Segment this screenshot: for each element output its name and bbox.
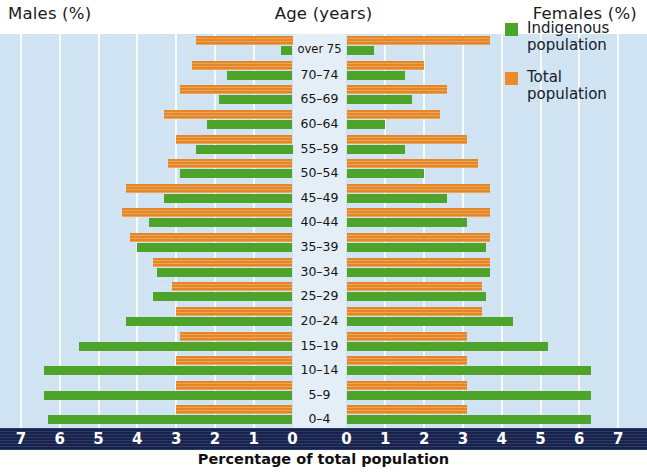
bar-male-total — [164, 110, 292, 119]
axis-tick-left: 0 — [287, 430, 297, 448]
bar-female-total — [347, 36, 491, 45]
bar-female-total — [347, 208, 491, 217]
bar-female-total — [347, 381, 467, 390]
legend-swatch-icon-total — [505, 72, 518, 85]
bar-female-total — [347, 405, 467, 414]
bar-male-indigenous — [219, 95, 293, 104]
bar-male-indigenous — [44, 391, 292, 400]
bar-male-total — [122, 208, 293, 217]
bar-female-indigenous — [347, 317, 514, 326]
age-group-label: 20–24 — [293, 315, 346, 328]
age-group-label: 40–44 — [293, 216, 346, 229]
legend-label-indigenous-line2: population — [527, 36, 607, 54]
axis-tick-right: 4 — [496, 430, 506, 448]
age-group-label: 65–69 — [293, 93, 346, 106]
axis-tick-left: 4 — [132, 430, 142, 448]
bar-male-indigenous — [44, 366, 292, 375]
pyramid-row: 45–49 — [0, 182, 647, 207]
population-pyramid-chart: Males (%) Age (years) Females (%) over 7… — [0, 0, 647, 473]
axis-tick-left: 1 — [248, 430, 258, 448]
bar-male-total — [192, 61, 293, 70]
axis-tick-left: 2 — [210, 430, 220, 448]
bar-male-indigenous — [196, 145, 293, 154]
bar-female-indigenous — [347, 243, 487, 252]
bar-female-total — [347, 110, 440, 119]
pyramid-row: 35–39 — [0, 231, 647, 256]
pyramid-row: 40–44 — [0, 206, 647, 231]
bar-male-indigenous — [227, 71, 293, 80]
bar-male-total — [176, 381, 292, 390]
x-axis-title: Percentage of total population — [0, 451, 647, 467]
bar-female-total — [347, 356, 467, 365]
bar-female-total — [347, 332, 467, 341]
age-group-label: 45–49 — [293, 192, 346, 205]
bar-female-indigenous — [347, 366, 591, 375]
bar-male-total — [172, 282, 292, 291]
age-group-label: 10–14 — [293, 364, 346, 377]
bar-male-indigenous — [79, 342, 292, 351]
bar-female-total — [347, 85, 448, 94]
bar-male-indigenous — [137, 243, 292, 252]
age-group-label: 60–64 — [293, 118, 346, 131]
age-group-label: 55–59 — [293, 143, 346, 156]
bar-male-indigenous — [126, 317, 293, 326]
bar-female-total — [347, 135, 467, 144]
axis-tick-left: 7 — [16, 430, 26, 448]
bar-male-total — [196, 36, 293, 45]
age-group-label: 25–29 — [293, 290, 346, 303]
pyramid-row: 5–9 — [0, 379, 647, 404]
legend-label-total-line2: population — [527, 85, 607, 103]
bar-male-total — [153, 258, 293, 267]
legend-label-indigenous-line1: Indigenous — [527, 19, 609, 37]
bar-female-total — [347, 61, 425, 70]
bar-female-indigenous — [347, 194, 448, 203]
axis-tick-right: 0 — [341, 430, 351, 448]
bar-male-indigenous — [281, 46, 293, 55]
bar-female-indigenous — [347, 415, 591, 424]
bar-male-total — [176, 135, 292, 144]
axis-tick-left: 3 — [171, 430, 181, 448]
legend-item-indigenous: Indigenous population — [505, 20, 640, 55]
bar-male-indigenous — [207, 120, 292, 129]
bar-male-indigenous — [180, 169, 293, 178]
bar-female-indigenous — [347, 342, 549, 351]
pyramid-row: 0–4 — [0, 403, 647, 428]
age-group-label: 70–74 — [293, 69, 346, 82]
bar-male-total — [180, 85, 293, 94]
pyramid-row: 10–14 — [0, 354, 647, 379]
legend-label-total-line1: Total — [527, 68, 562, 86]
bar-female-total — [347, 258, 491, 267]
bar-female-indigenous — [347, 120, 386, 129]
bar-female-total — [347, 184, 491, 193]
age-group-label: over 75 — [293, 44, 346, 56]
age-group-label: 5–9 — [293, 389, 346, 402]
age-group-label: 15–19 — [293, 340, 346, 353]
bar-female-indigenous — [347, 145, 405, 154]
bar-male-indigenous — [153, 292, 293, 301]
bar-male-indigenous — [164, 194, 292, 203]
x-axis: 7654321001234567 — [0, 428, 647, 450]
bar-male-indigenous — [157, 268, 293, 277]
bar-female-indigenous — [347, 95, 413, 104]
axis-tick-right: 7 — [613, 430, 623, 448]
bar-female-indigenous — [347, 71, 405, 80]
bar-female-indigenous — [347, 46, 374, 55]
bar-female-indigenous — [347, 391, 591, 400]
bar-male-total — [168, 159, 292, 168]
bar-female-indigenous — [347, 292, 487, 301]
bar-female-total — [347, 307, 483, 316]
axis-tick-right: 1 — [380, 430, 390, 448]
axis-tick-right: 5 — [535, 430, 545, 448]
pyramid-row: 30–34 — [0, 256, 647, 281]
axis-tick-left: 6 — [54, 430, 64, 448]
axis-tick-right: 2 — [419, 430, 429, 448]
bar-female-indigenous — [347, 218, 467, 227]
bar-female-total — [347, 159, 479, 168]
legend-swatch-icon-indigenous — [505, 23, 518, 36]
bar-female-total — [347, 233, 491, 242]
axis-tick-right: 6 — [574, 430, 584, 448]
legend-item-total: Total population — [505, 69, 640, 104]
bar-male-total — [180, 332, 293, 341]
pyramid-row: 20–24 — [0, 305, 647, 330]
pyramid-row: 55–59 — [0, 133, 647, 158]
